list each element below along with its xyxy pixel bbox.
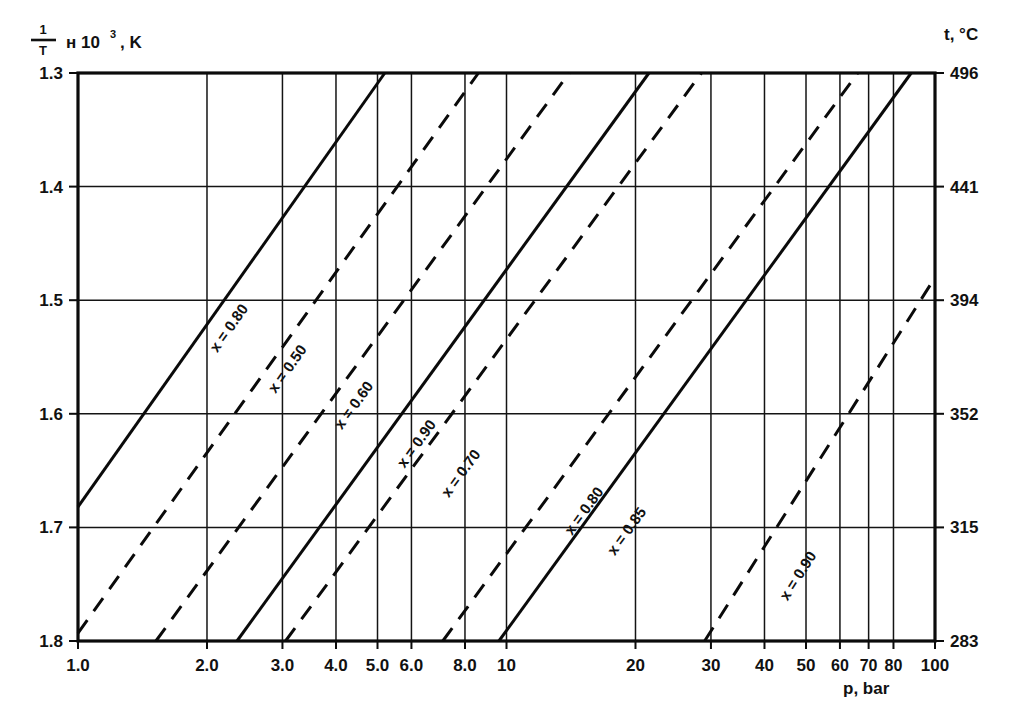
y-axis-unit-label: , K [120,33,142,52]
curve-label-7: x = 0.85 [603,504,649,558]
x-tick-label: 5.0 [366,656,390,675]
y-tick-label: 1.8 [39,632,63,651]
y-tick-label: 1.7 [39,518,63,537]
curve-label-5: x = 0.70 [438,446,484,500]
fraction-denominator-label: T [39,43,47,58]
x-tick-label: 1.0 [66,656,90,675]
curve-line-8 [705,277,935,641]
curve-label-6: x = 0.80 [561,483,607,537]
x-tick-label: 20 [626,656,645,675]
x-tick-label: 8.0 [453,656,477,675]
y-axis-ticks: 1.31.41.51.61.71.8 [39,64,78,651]
curve-line-7 [499,73,911,641]
x-tick-label: 3.0 [271,656,295,675]
x-tick-label: 2.0 [195,656,219,675]
x-tick-label: 50 [797,656,816,675]
x-tick-label: 40 [755,656,774,675]
y-tick-label: 1.5 [39,291,63,310]
curve-label-1: x = 0.80 [206,300,251,354]
x-tick-label: 100 [921,656,949,675]
x-axis-caption-label: p, bar [843,679,890,698]
curve-label-2: x = 0.50 [264,341,310,395]
y-tick-label: 1.6 [39,405,63,424]
y-axis-exponent-label: 3 [110,28,116,40]
x-tick-label: 60 [831,657,849,674]
right-tick-label: 283 [950,632,978,651]
curve-line-6 [443,73,858,641]
chart-figure: 1 T н 10 3 , K t, °C p, bar x = 0.80x = … [0,0,1012,727]
curve-line-5 [286,73,702,641]
right-tick-label: 315 [950,518,978,537]
x-tick-label: 4.0 [324,656,348,675]
x-tick-label: 30 [701,656,720,675]
right-axis-ticks: 496441394352315283 [935,64,979,651]
curve-label-3: x = 0.60 [331,378,377,432]
x-tick-label: 70 [860,657,878,674]
right-tick-label: 496 [950,64,978,83]
y-tick-label: 1.3 [39,64,63,83]
x-axis-ticks: 1.02.03.04.05.06.08.01020304050607080100 [66,641,949,675]
x-tick-label: 6.0 [400,656,424,675]
curve-line-2 [78,73,478,633]
x-tick-label: 10 [497,656,516,675]
ramzin-diagram-svg: 1 T н 10 3 , K t, °C p, bar x = 0.80x = … [0,0,1012,727]
right-tick-label: 394 [950,291,979,310]
y-axis-multiplier-label: н 10 [66,33,100,52]
fraction-numerator-label: 1 [39,22,46,37]
right-tick-label: 441 [950,178,978,197]
right-tick-label: 352 [950,405,978,424]
y-tick-label: 1.4 [39,178,63,197]
curve-label-8: x = 0.90 [776,548,820,603]
curve-line-1 [78,73,385,507]
x-tick-label: 80 [885,657,903,674]
right-axis-caption-label: t, °C [944,25,978,44]
y-axis-caption-group: 1 T н 10 3 , K [31,22,142,58]
